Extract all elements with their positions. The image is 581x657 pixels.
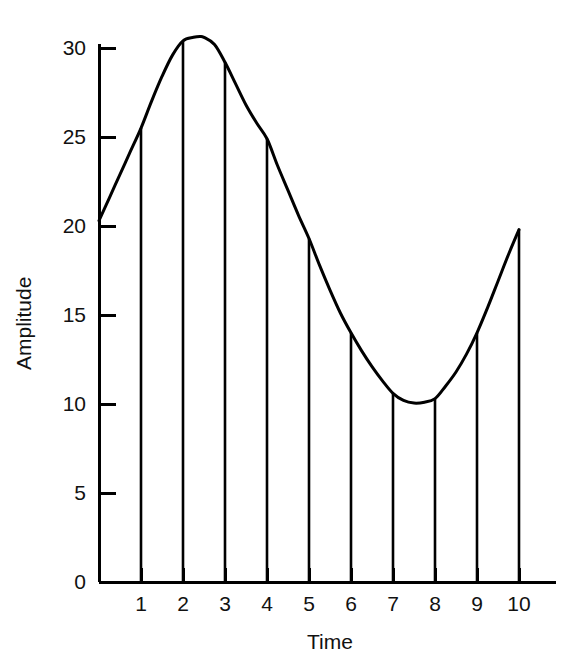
chart-plot-area [0, 0, 581, 657]
x-axis-tick-label: 8 [429, 592, 441, 616]
x-axis-ticks [141, 568, 519, 582]
axes [99, 44, 556, 582]
y-axis-title: Amplitude [12, 277, 36, 370]
x-axis-tick-label: 10 [507, 592, 530, 616]
x-axis-tick-label: 1 [135, 592, 147, 616]
x-axis-tick-label: 7 [387, 592, 399, 616]
y-axis-tick-label: 15 [40, 303, 86, 327]
amplitude-vs-time-chart: 051015202530 12345678910 Amplitude Time [0, 0, 581, 657]
x-axis-tick-label: 5 [303, 592, 315, 616]
y-axis-tick-label: 30 [40, 36, 86, 60]
y-axis-tick-label: 5 [40, 481, 86, 505]
x-axis-title: Time [307, 630, 353, 654]
y-axis-tick-label: 20 [40, 214, 86, 238]
y-axis-tick-label: 10 [40, 392, 86, 416]
x-axis-tick-label: 6 [345, 592, 357, 616]
y-axis-tick-label: 0 [40, 570, 86, 594]
x-axis-tick-label: 4 [261, 592, 273, 616]
x-axis-tick-label: 9 [471, 592, 483, 616]
x-axis-tick-label: 3 [219, 592, 231, 616]
sample-impulse-lines [141, 41, 519, 582]
y-axis-ticks [99, 48, 116, 582]
y-axis-tick-label: 25 [40, 125, 86, 149]
x-axis-tick-label: 2 [177, 592, 189, 616]
